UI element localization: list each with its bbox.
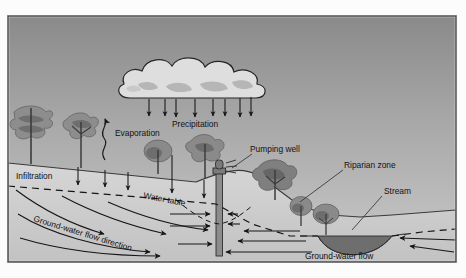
- hydrologic-cycle-diagram: Precipitation Evaporation Infiltration W…: [0, 0, 466, 278]
- label-stream: Stream: [384, 186, 411, 196]
- figure-body: Precipitation Evaporation Infiltration W…: [8, 16, 456, 262]
- label-evaporation: Evaporation: [115, 128, 160, 138]
- label-riparian-zone: Riparian zone: [344, 160, 396, 170]
- label-precipitation: Precipitation: [172, 119, 218, 129]
- label-infiltration: Infiltration: [16, 171, 53, 181]
- label-groundwater-flow: Ground-water flow: [305, 251, 374, 261]
- diagram-stage: Precipitation Evaporation Infiltration W…: [0, 0, 466, 278]
- label-pumping-well: Pumping well: [250, 144, 300, 154]
